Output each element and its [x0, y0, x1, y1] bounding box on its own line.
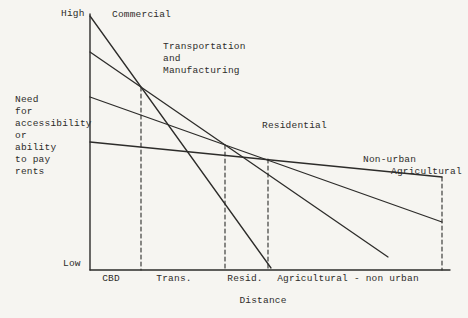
- agricultural-curve-label: Non-urban Agricultural: [363, 142, 462, 190]
- figure-container: High Commercial Transportation and Manuf…: [0, 0, 468, 318]
- zone-label-trans: Trans.: [156, 273, 191, 285]
- y-axis-high-label: High: [61, 8, 85, 20]
- zone-label-agri: Agricultural - non urban: [277, 273, 419, 285]
- agricultural-curve-label-line2: Agricultural: [363, 166, 462, 178]
- transport-curve-label: Transportation and Manufacturing: [163, 41, 246, 77]
- zone-label-cbd: CBD: [102, 273, 120, 285]
- y-axis-caption: Need for accessibility or ability to pay…: [15, 94, 92, 178]
- residential-curve-label: Residential: [262, 120, 327, 132]
- y-axis-low-label: Low: [63, 258, 81, 270]
- commercial-curve-label: Commercial: [112, 9, 171, 21]
- transport-line: [90, 52, 388, 257]
- zone-label-resid: Resid.: [227, 273, 262, 285]
- x-axis-caption: Distance: [239, 295, 286, 307]
- agricultural-curve-label-line1: Non-urban: [363, 154, 416, 165]
